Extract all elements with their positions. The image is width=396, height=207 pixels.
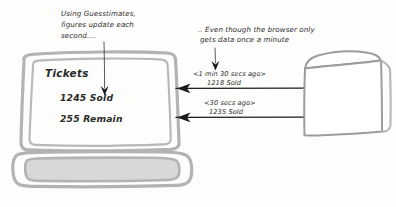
laptop-keyboard-deck: [25, 158, 179, 182]
left-note-line3: second....: [61, 31, 96, 40]
message-2-payload: 1235 Sold: [209, 108, 244, 116]
screen-heading: Tickets: [45, 67, 89, 79]
message-1-payload: 1218 Sold: [207, 79, 242, 87]
diagram-canvas: Tickets 1245 Sold 255 Remain Using Guess…: [0, 0, 396, 207]
left-note-line1: Using Guesstimates,: [61, 9, 136, 18]
message-1-timestamp: <1 min 30 secs ago>: [193, 70, 266, 78]
right-note-line2: gets data once a minute: [200, 35, 290, 44]
message-arrow-2: <30 secs ago> 1235 Sold: [176, 99, 303, 122]
message-2-timestamp: <30 secs ago>: [204, 99, 256, 107]
right-annotation: .. Even though the browser only gets dat…: [198, 25, 315, 71]
cube-front-face: [304, 61, 382, 136]
server-cube: [304, 52, 390, 136]
left-note-line2: figures update each: [61, 20, 134, 29]
message-arrow-1: <1 min 30 secs ago> 1218 Sold: [176, 70, 303, 93]
left-annotation-arrow-shaft: [104, 42, 105, 88]
screen-remain-line: 255 Remain: [60, 113, 123, 124]
right-note-line1: .. Even though the browser only: [198, 25, 315, 34]
browser-laptop: Tickets 1245 Sold 255 Remain: [13, 52, 192, 187]
